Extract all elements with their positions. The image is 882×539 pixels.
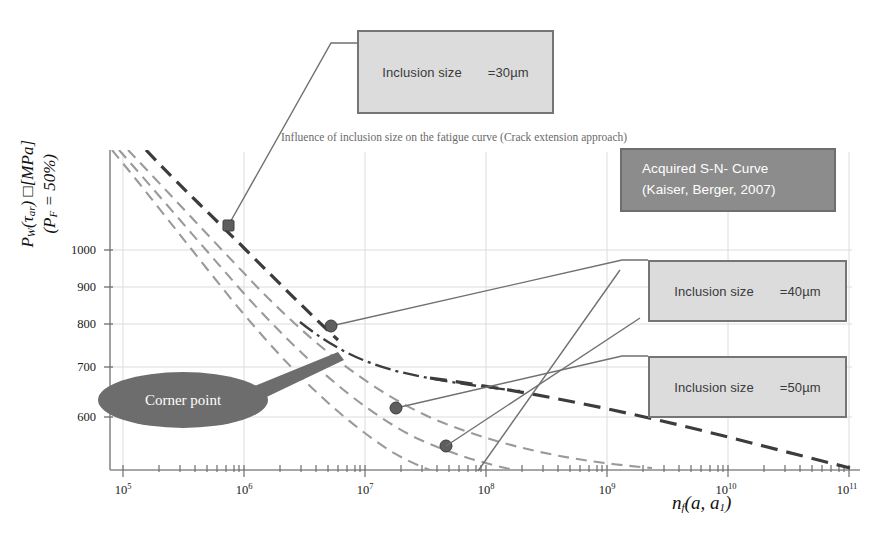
callout-30-value: =30µm	[488, 65, 529, 80]
marker-inclusion-40	[325, 320, 337, 332]
y-axis-title-pw: P	[18, 237, 37, 247]
callout-inclusion-size-30[interactable]: Inclusion size =30µm	[357, 30, 554, 114]
x-tick-label-1e5: 105	[105, 481, 141, 498]
x-tick-base: 10	[115, 483, 128, 497]
callout-acquired-line1: Acquired S-N- Curve	[642, 159, 768, 180]
callout-50-value: =50µm	[780, 380, 821, 395]
x-tick-label-1e7: 107	[347, 481, 383, 498]
y-axis-title-tau: (τ	[18, 216, 37, 228]
y-axis-title-tau-sub: ar	[25, 206, 37, 216]
chart-figure: Influence of inclusion size on the fatig…	[0, 0, 882, 539]
y-tick-label-600: 600	[56, 410, 96, 425]
callout-30-label: Inclusion size	[382, 65, 461, 80]
y-tick-label-700: 700	[56, 360, 96, 375]
corner-point-label: Corner point	[145, 392, 221, 409]
y-axis-title: PW(τar) □[MPa] (PF = 50%)	[17, 89, 61, 299]
leader-lines-extra	[446, 318, 640, 446]
y-tick-label-1000: 1000	[56, 243, 96, 258]
x-tick-base: 10	[236, 483, 249, 497]
x-tick-base: 10	[357, 483, 370, 497]
callout-40-value: =40µm	[780, 284, 821, 299]
x-tick-exp: 7	[369, 481, 373, 491]
x-tick-label-1e6: 106	[226, 481, 262, 498]
callout-50-label: Inclusion size	[674, 380, 753, 395]
corner-point-callout[interactable]: Corner point	[98, 372, 268, 428]
y-axis-title-pf: (P	[40, 218, 59, 234]
x-tick-base: 10	[478, 483, 491, 497]
x-axis-ticks	[123, 465, 849, 477]
x-tick-exp: 11	[849, 481, 857, 491]
marker-inclusion-50	[390, 402, 402, 414]
y-axis-title-unit: ) □[MPa]	[18, 140, 37, 206]
callout-acquired-sn-curve[interactable]: Acquired S-N- Curve (Kaiser, Berger, 200…	[620, 148, 836, 212]
callout-acquired-line2: (Kaiser, Berger, 2007)	[642, 180, 776, 201]
callout-inclusion-size-50[interactable]: Inclusion size =50µm	[648, 356, 847, 418]
x-tick-label-1e10: 1010	[708, 481, 744, 498]
x-tick-label-1e8: 108	[468, 481, 504, 498]
y-axis-title-pf-val: = 50%)	[40, 154, 59, 211]
leader-line-40	[331, 260, 648, 326]
x-tick-exp: 6	[248, 481, 252, 491]
x-tick-exp: 5	[127, 481, 131, 491]
y-axis-title-pw-sub: W	[25, 228, 37, 237]
plot-caption: Influence of inclusion size on the fatig…	[281, 131, 627, 143]
x-tick-exp: 10	[728, 481, 737, 491]
marker-inclusion-30	[223, 220, 234, 231]
x-tick-base: 10	[837, 483, 850, 497]
x-tick-base: 10	[716, 483, 729, 497]
x-tick-exp: 9	[611, 481, 615, 491]
x-tick-exp: 8	[490, 481, 494, 491]
x-axis-title-n: n	[672, 492, 682, 513]
callout-40-label: Inclusion size	[674, 284, 753, 299]
leader-line-acquired	[478, 270, 620, 471]
y-axis-title-pf-sub: F	[47, 211, 59, 218]
x-tick-label-1e9: 109	[589, 481, 625, 498]
x-tick-base: 10	[599, 483, 612, 497]
leader-line-corner-marker	[446, 318, 640, 446]
curve-inclusion-30	[112, 150, 520, 492]
y-tick-label-900: 900	[56, 280, 96, 295]
x-tick-label-1e11: 1011	[829, 481, 865, 498]
callout-inclusion-size-40[interactable]: Inclusion size =40µm	[648, 260, 847, 322]
leader-line-50	[396, 356, 648, 408]
y-tick-label-800: 800	[56, 317, 96, 332]
